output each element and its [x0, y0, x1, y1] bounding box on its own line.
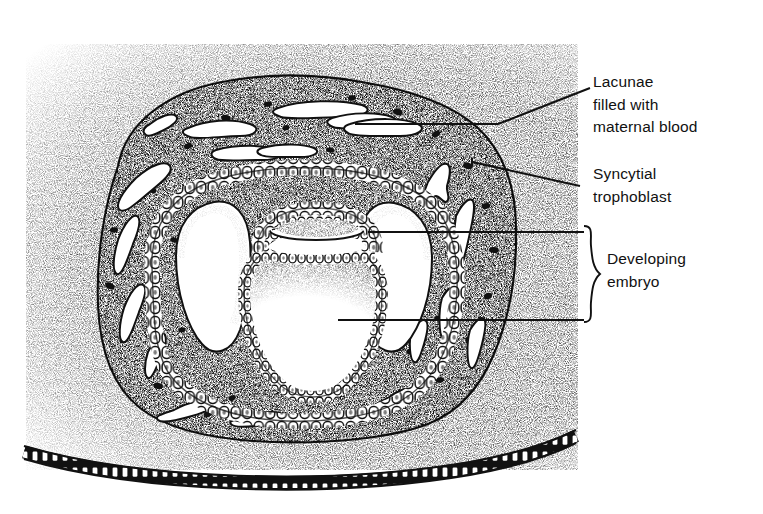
- figure-canvas: Lacunae filled with maternal blood Syncy…: [0, 0, 763, 514]
- label-developing-embryo: Developing embryo: [607, 248, 686, 293]
- label-lacunae: Lacunae filled with maternal blood: [593, 71, 698, 139]
- label-syncytial-trophoblast: Syncytial trophoblast: [593, 163, 671, 208]
- lacuna: [344, 119, 422, 136]
- lacuna: [257, 145, 317, 158]
